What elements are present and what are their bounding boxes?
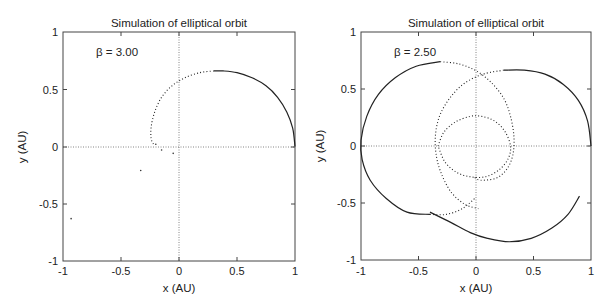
svg-text:0.5: 0.5 [43,84,58,96]
left-x-tick-labels: -1 -0.5 0 0.5 1 [58,265,298,277]
svg-text:-1: -1 [58,265,68,277]
svg-text:-1: -1 [48,255,58,267]
right-x-axis-label: x (AU) [460,282,493,294]
svg-text:-1: -1 [356,265,366,277]
svg-text:1: 1 [292,265,298,277]
svg-text:-1: -1 [346,254,356,266]
svg-text:0: 0 [176,265,182,277]
svg-text:-0.5: -0.5 [409,265,428,277]
orbit-figure: Simulation of elliptical orbit -1 -0.5 0… [0,0,615,307]
svg-text:0: 0 [52,141,58,153]
svg-text:-0.5: -0.5 [39,198,58,210]
orbit-4-solid-line [430,196,580,242]
svg-text:1: 1 [350,26,356,38]
svg-text:0: 0 [350,140,356,152]
data-point [172,153,174,155]
left-panel: Simulation of elliptical orbit -1 -0.5 0… [16,17,298,294]
data-point [155,143,157,145]
data-point [140,170,142,172]
svg-text:0.5: 0.5 [341,83,356,95]
left-ticks [63,32,295,261]
svg-text:1: 1 [52,26,58,38]
orbit-1-solid-line [504,70,591,146]
inner-dotted-line [438,116,511,178]
svg-text:0: 0 [473,265,479,277]
svg-text:-0.5: -0.5 [337,197,356,209]
right-y-tick-labels: 1 0.5 0 -0.5 -1 [337,26,356,266]
left-y-tick-labels: 1 0.5 0 -0.5 -1 [39,26,58,267]
svg-text:0.5: 0.5 [229,265,244,277]
orbit-1-dotted-line [435,70,503,209]
data-point [161,149,163,151]
data-point [70,218,72,220]
svg-text:0.5: 0.5 [526,265,541,277]
right-chart-title: Simulation of elliptical orbit [408,17,545,29]
left-plot-frame [63,32,295,261]
right-y-axis-label: y (AU) [314,130,326,163]
orbit-solid-line [214,71,295,147]
left-chart-title: Simulation of elliptical orbit [111,17,248,29]
orbit-dotted-line [151,71,214,144]
left-beta-annotation: β = 3.00 [96,46,138,58]
orbit-2-dotted-line [440,62,514,181]
right-x-tick-labels: -1 -0.5 0 0.5 1 [356,265,594,277]
svg-text:1: 1 [588,265,594,277]
left-y-axis-label: y (AU) [16,131,28,164]
right-beta-annotation: β = 2.50 [394,46,436,58]
svg-text:-0.5: -0.5 [112,265,131,277]
left-x-axis-label: x (AU) [163,282,196,294]
left-orbit-series [70,71,295,220]
orbit-2-solid-line [361,62,441,215]
right-panel: Simulation of elliptical orbit -1 -0.5 0… [314,17,594,294]
